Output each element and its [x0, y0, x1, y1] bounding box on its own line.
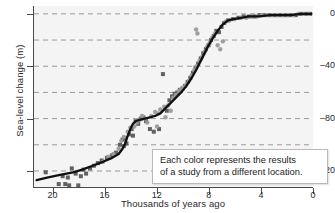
chart-root: Sea-level change (m) Thousands of years … [0, 0, 335, 213]
x-tick-label: 20 [39, 190, 67, 200]
annotation-line-2: of a study from a different location. [160, 166, 321, 178]
annotation-line-1: Each color represents the results [160, 154, 321, 166]
y-axis-title: Sea-level change (m) [14, 16, 25, 166]
x-tick-label: 16 [91, 190, 119, 200]
annotation-callout: Each color represents the results of a s… [152, 149, 328, 184]
x-tick-label: 0 [299, 190, 327, 200]
x-tick-label: 4 [247, 190, 275, 200]
x-tick-label: 12 [143, 190, 171, 200]
x-tick-label: 8 [195, 190, 223, 200]
